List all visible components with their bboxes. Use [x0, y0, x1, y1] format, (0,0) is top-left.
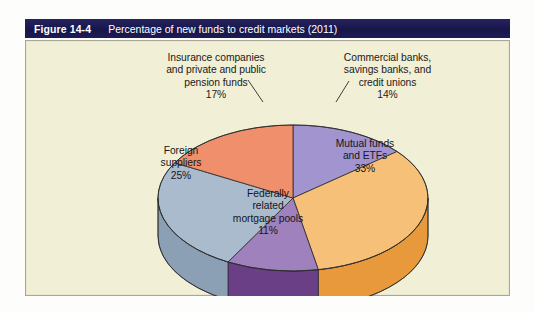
figure-number: Figure 14-4	[34, 23, 91, 35]
pie-label-federally-related: Federally related mortgage pools 11%	[203, 188, 333, 238]
pie-chart: Insurance companies and private and publ…	[25, 40, 510, 296]
pie-label-insurance-pension: Insurance companies and private and publ…	[130, 52, 302, 102]
pie-label-mutual-funds: Mutual funds and ETFs 33%	[305, 138, 425, 175]
figure-caption: Percentage of new funds to credit market…	[108, 23, 337, 35]
figure-title-bar: Figure 14-4 Percentage of new funds to c…	[25, 19, 510, 38]
pie-label-foreign-suppliers: Foreign suppliers 25%	[125, 145, 237, 182]
pie-label-commercial-banks: Commercial banks, savings banks, and cre…	[310, 52, 465, 102]
figure-container: Figure 14-4 Percentage of new funds to c…	[0, 0, 535, 312]
